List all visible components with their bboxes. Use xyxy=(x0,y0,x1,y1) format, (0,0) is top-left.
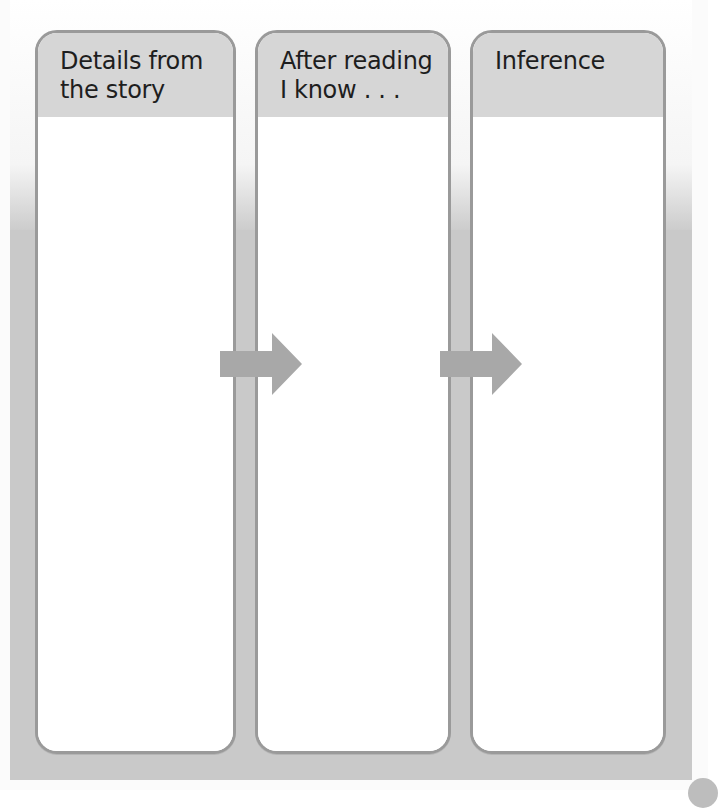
column-details-from-story: Details from the story xyxy=(35,30,236,754)
column-title: After reading I know . . . xyxy=(280,47,448,105)
right-arrow-icon xyxy=(440,333,522,395)
column-writing-area[interactable] xyxy=(473,117,663,751)
column-title: Inference xyxy=(495,47,663,76)
column-title: Details from the story xyxy=(60,47,233,105)
column-writing-area[interactable] xyxy=(258,117,448,751)
column-header: Inference xyxy=(473,33,663,117)
right-arrow-icon xyxy=(220,333,302,395)
page-number-badge xyxy=(688,778,718,808)
column-header: After reading I know . . . xyxy=(258,33,448,117)
column-writing-area[interactable] xyxy=(38,117,233,751)
column-header: Details from the story xyxy=(38,33,233,117)
